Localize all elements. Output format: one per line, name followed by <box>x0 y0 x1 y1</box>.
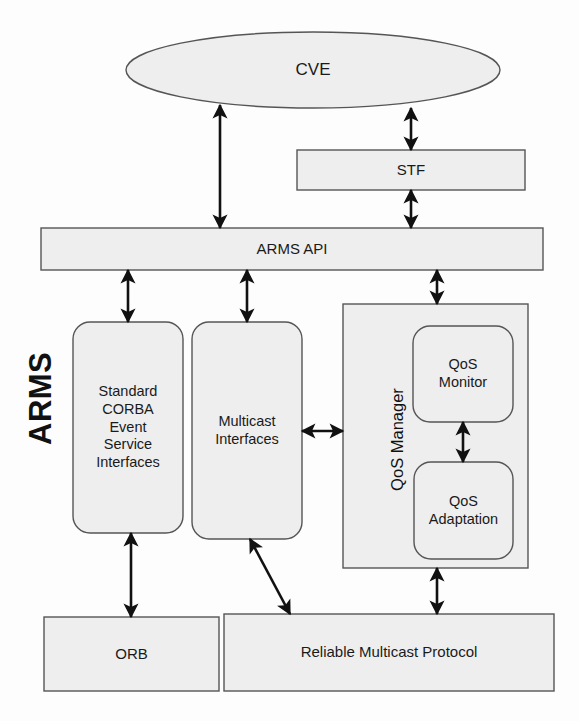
node-cve-shape <box>126 32 500 108</box>
node-rmp-shape <box>224 614 554 691</box>
node-orb-shape <box>44 617 219 691</box>
node-qos-adaptation-shape <box>414 462 513 559</box>
node-arms-api-shape <box>41 228 543 270</box>
node-stf-shape <box>297 150 525 190</box>
node-qos-monitor-shape <box>413 326 513 422</box>
node-multicast-shape <box>192 322 302 539</box>
diagram-shapes-layer <box>0 0 579 721</box>
connector-multicast-rmp <box>250 539 290 614</box>
node-corba-shape <box>73 322 183 533</box>
diagram-canvas: CVE STF ARMS API Standard CORBA Event Se… <box>0 0 579 721</box>
